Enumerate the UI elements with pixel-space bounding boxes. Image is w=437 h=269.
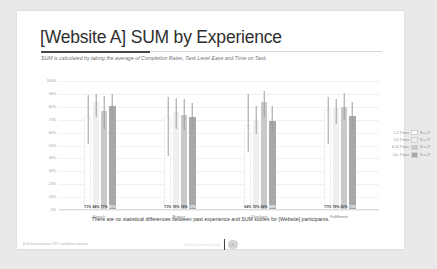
y-axis-tick-label: 30% [49,169,56,173]
bar[interactable] [109,106,116,210]
legend-color-swatch [411,130,418,136]
bar-value-label: 84% [92,205,99,209]
legend-sample-size: N = 27 [420,153,430,157]
bar-value-label: 76% [172,205,179,209]
y-axis-tick-label: 50% [49,144,56,148]
bar-slot[interactable]: 81% [109,79,116,210]
bar-value-label: 72% [189,205,196,209]
title-underline-accent [41,51,150,53]
bar-slot[interactable]: 71% [164,79,171,210]
legend-sample-size: N = 27 [420,138,430,142]
error-bar [327,97,328,145]
bar-slot[interactable]: 80% [341,79,348,210]
error-bar [352,102,353,129]
bar[interactable] [349,116,356,210]
error-bar [256,106,257,134]
bar-slot[interactable]: 84% [93,79,100,210]
gridline [59,210,379,211]
bar-slot[interactable]: 71% [84,79,91,210]
x-axis-line [59,209,379,210]
error-bar [344,93,345,120]
bar-group: 71%76%74%72%Browse [139,79,219,210]
error-bar [192,103,193,130]
bar-value-label: 71% [84,205,91,209]
error-bar [247,94,248,152]
bar-slot[interactable]: 72% [189,79,196,210]
bar-value-label: 64% [244,205,251,209]
y-axis-tick-label: 90% [49,92,56,96]
bar-slot[interactable]: 73% [349,79,356,210]
bar-value-label: 74% [181,205,188,209]
bar-value-label: 69% [269,205,276,209]
bar-value-label: 79% [332,205,339,209]
error-bar [167,97,168,156]
footer-logo-icon: 25 [228,240,238,250]
bar-slot[interactable]: 79% [333,79,340,210]
bar[interactable] [93,102,100,210]
error-bar [87,95,88,144]
bar-value-label: 71% [164,205,171,209]
error-bar [336,99,337,124]
legend-label: 10+ Times [385,153,409,157]
bar-group: 71%84%77%81%Search [59,79,139,210]
error-bar [176,98,177,129]
slide-canvas: [Website A] SUM by Experience SUM is cal… [17,11,404,249]
title-underline-light [150,51,382,52]
bar[interactable] [269,121,276,210]
page-title: [Website A] SUM by Experience [40,27,282,48]
bar-chart-plot-area: 100%90%80%70%60%50%40%30%20%10%0% 71%84%… [41,79,379,210]
bar-slot[interactable]: 77% [324,79,331,210]
bar-slot[interactable]: 74% [181,79,188,210]
legend-color-swatch [411,145,418,151]
legend-item[interactable]: 10+ TimesN = 27 [385,151,437,158]
legend-label: 3-5 Times [385,138,409,142]
bar-group: 64%70%84%69%Checkout [219,79,299,210]
bar-slot[interactable]: 69% [269,79,276,210]
legend-item[interactable]: 6-10 TimesN = 27 [385,144,437,151]
bar-slot[interactable]: 70% [253,79,260,210]
legend-label: 6-10 Times [385,145,409,149]
error-bar [264,91,265,117]
bar-slot[interactable]: 64% [244,79,251,210]
y-axis-tick-label: 0% [51,208,56,212]
error-bar [96,94,97,117]
bar-value-label: 77% [101,205,108,209]
bar-value-label: 84% [261,205,268,209]
y-axis-tick-label: 100% [47,79,56,83]
slide-footer: [Website] Usability Study 25 [183,239,237,250]
bar-slot[interactable]: 76% [173,79,180,210]
y-axis-tick-label: 60% [49,131,56,135]
bar-slot[interactable]: 77% [101,79,108,210]
error-bar [104,96,105,128]
bar-value-label: 73% [349,205,356,209]
bar[interactable] [189,117,196,210]
y-axis-tick-label: 20% [49,182,56,186]
chart-legend: 1-2 TimesN = 273-5 TimesN = 276-10 Times… [385,129,437,159]
error-bar [112,94,113,120]
legend-item[interactable]: 3-5 TimesN = 27 [385,136,437,143]
legend-sample-size: N = 27 [420,131,430,135]
footnote-error-bars: Error bars represent 95% confidence inte… [23,242,89,246]
bar[interactable] [341,107,348,210]
y-axis-tick-label: 70% [49,118,56,122]
error-bar [272,106,273,133]
legend-label: 1-2 Times [385,131,409,135]
subtitle: SUM is calculated by taking the average … [41,55,267,61]
legend-color-swatch [411,152,418,158]
footer-study-label: [Website] Usability Study [183,243,220,247]
bar-slot[interactable]: 84% [261,79,268,210]
bar-value-label: 81% [109,205,116,209]
legend-item[interactable]: 1-2 TimesN = 27 [385,129,437,136]
legend-color-swatch [411,137,418,143]
legend-sample-size: N = 27 [420,145,430,149]
bar[interactable] [261,102,268,210]
y-axis-tick-label: 80% [49,105,56,109]
bar-value-label: 77% [324,205,331,209]
bar-value-label: 70% [252,205,259,209]
y-axis-tick-label: 10% [49,195,56,199]
bar-value-label: 80% [341,205,348,209]
chart-caption: There are no statistical differences bet… [17,216,404,222]
error-bar [184,99,185,130]
y-axis-tick-label: 40% [49,156,56,160]
bar-group: 77%79%80%73%Fulfillment [299,79,379,210]
